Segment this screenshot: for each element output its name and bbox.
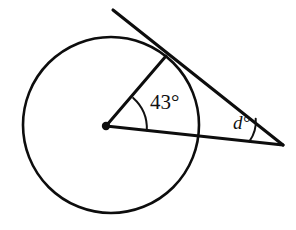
- geometry-figure: 43° d°: [0, 0, 296, 230]
- external-angle-label: d°: [233, 112, 251, 133]
- circle-center-dot: [102, 122, 110, 130]
- central-angle-label: 43°: [150, 90, 179, 114]
- center-to-external-vertex-segment: [106, 126, 283, 145]
- geometry-diagram: 43° d°: [0, 0, 296, 230]
- central-angle-arc: [133, 98, 147, 130]
